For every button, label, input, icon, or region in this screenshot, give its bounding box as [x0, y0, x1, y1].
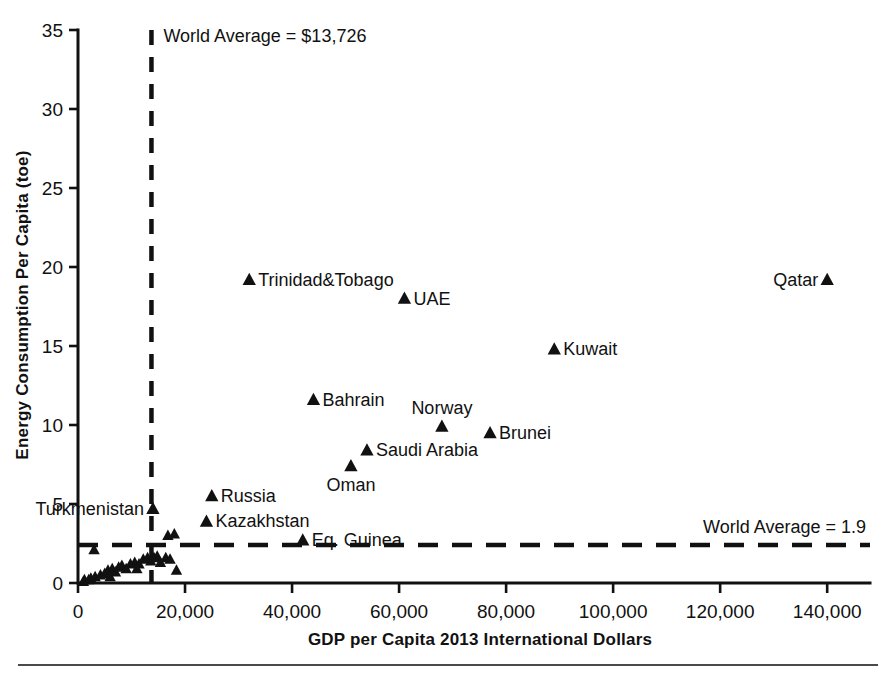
world-average-energy-label: World Average = 1.9 — [703, 517, 866, 537]
y-tick-label: 35 — [42, 20, 63, 41]
axes — [69, 30, 870, 593]
y-tick-label: 30 — [42, 99, 63, 120]
point-label: Trinidad&Tobago — [258, 270, 393, 290]
point-labels: World Average = $13,726World Average = 1… — [36, 26, 866, 550]
data-points — [78, 273, 834, 586]
axis-lines — [78, 30, 870, 583]
data-point-marker — [821, 273, 834, 285]
scatter-plot: World Average = $13,726World Average = 1… — [0, 0, 896, 681]
data-point-marker — [344, 459, 357, 471]
y-tick-label: 0 — [52, 573, 63, 594]
x-axis-title: GDP per Capita 2013 International Dollar… — [308, 630, 652, 649]
y-tick-label: 10 — [42, 415, 63, 436]
point-label: Eq. Guinea — [312, 530, 403, 550]
data-point-marker — [205, 489, 218, 501]
x-tick-label: 100,000 — [579, 601, 648, 622]
data-point-marker — [169, 528, 180, 539]
footer-divider — [18, 664, 878, 666]
point-label: Norway — [411, 398, 472, 418]
point-label: Saudi Arabia — [376, 440, 479, 460]
y-axis-title: Energy Consumption Per Capita (toe) — [13, 150, 32, 459]
data-point-marker — [243, 273, 256, 285]
data-point-marker — [200, 514, 213, 526]
world-average-gdp-label: World Average = $13,726 — [163, 26, 366, 46]
x-tick-label: 80,000 — [477, 601, 535, 622]
data-point-marker — [435, 420, 448, 432]
point-label: Russia — [221, 486, 277, 506]
data-point-marker — [398, 292, 411, 304]
point-label: Oman — [326, 475, 375, 495]
y-tick-label: 5 — [52, 494, 63, 515]
data-point-marker — [548, 342, 561, 354]
data-point-marker — [483, 426, 496, 438]
y-tick-label: 20 — [42, 257, 63, 278]
data-point-marker — [296, 533, 309, 545]
y-tick-label: 25 — [42, 178, 63, 199]
x-tick-label: 140,000 — [793, 601, 862, 622]
data-point-marker — [307, 393, 320, 405]
x-tick-label: 120,000 — [686, 601, 755, 622]
x-tick-label: 0 — [73, 601, 84, 622]
data-point-marker — [171, 564, 182, 575]
point-label: Qatar — [773, 270, 818, 290]
reference-lines — [78, 30, 870, 583]
y-tick-label: 15 — [42, 336, 63, 357]
x-tick-label: 60,000 — [370, 601, 428, 622]
chart-figure: World Average = $13,726World Average = 1… — [0, 0, 896, 681]
data-point-marker — [146, 502, 159, 514]
data-point-marker — [360, 443, 373, 455]
point-label: UAE — [413, 289, 450, 309]
axis-text: 05101520253035020,00040,00060,00080,0001… — [13, 20, 862, 649]
point-label: Bahrain — [322, 390, 384, 410]
x-tick-label: 40,000 — [263, 601, 321, 622]
point-label: Brunei — [499, 423, 551, 443]
x-tick-label: 20,000 — [156, 601, 214, 622]
point-label: Kazakhstan — [215, 511, 309, 531]
point-label: Kuwait — [563, 339, 617, 359]
